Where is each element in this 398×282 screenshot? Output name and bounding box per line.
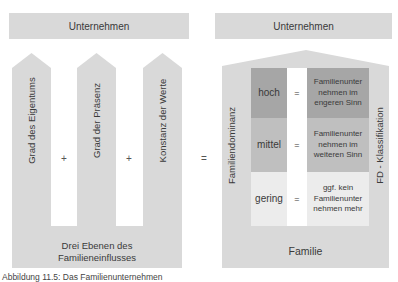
level-hoch: hoch <box>251 68 287 118</box>
figure-caption: Abbildung 11.5: Das Familienunternehmen <box>2 272 163 282</box>
row-gering-equals: = <box>287 172 307 226</box>
familie-label: Familie <box>222 245 389 257</box>
plus-operator-2: + <box>122 153 136 164</box>
pillar-label-eigentum: Grad des Eigentums <box>26 71 37 171</box>
row-hoch-equals: = <box>287 68 307 118</box>
row-gering-line1: ggf. kein <box>323 183 353 194</box>
base-line-2: Familieneinflusses <box>12 252 182 264</box>
plus-operator-1: + <box>57 153 71 164</box>
row-gering-line2: Familienunter <box>314 194 362 205</box>
row-gering-line3: nehmen mehr <box>313 204 362 215</box>
base-line-1: Drei Ebenen des <box>12 240 182 252</box>
level-mittel: mittel <box>251 118 287 172</box>
pillar-label-werte: Konstanz der Werte <box>157 71 168 171</box>
pillar-label-praesenz: Grad der Präsenz <box>91 71 102 171</box>
row-gering-result: ggf. kein Familienunter nehmen mehr <box>307 172 369 226</box>
row-hoch-line3: engeren Sinn <box>314 98 362 109</box>
row-hoch-line2: nehmen im <box>318 88 358 99</box>
left-base-text: Drei Ebenen des Familieneinflusses <box>12 240 182 264</box>
level-gering: gering <box>251 172 287 226</box>
row-hoch-line1: Familienunter <box>314 77 362 88</box>
row-mittel-equals: = <box>287 118 307 172</box>
row-mittel-line3: weiteren Sinn <box>314 150 362 161</box>
row-mittel-line2: nehmen im <box>318 140 358 151</box>
row-mittel-line1: Familienunter <box>314 129 362 140</box>
fd-klassifikation-label: FD - Klassifikation <box>374 101 385 191</box>
familiendominanz-label: Familiendominanz <box>226 101 237 191</box>
row-mittel-result: Familienunter nehmen im weiteren Sinn <box>307 118 369 172</box>
row-hoch-result: Familienunter nehmen im engeren Sinn <box>307 68 369 118</box>
